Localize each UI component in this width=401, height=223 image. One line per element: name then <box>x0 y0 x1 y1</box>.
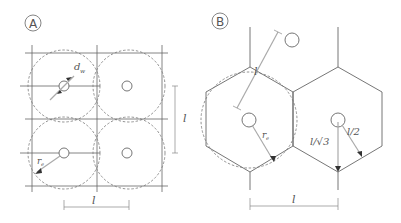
influence-circles <box>28 50 165 189</box>
panel-a-label: A <box>29 17 38 31</box>
panel-b-label: B <box>216 15 224 29</box>
svg-text:e: e <box>266 135 269 141</box>
inradius-dimension: l/2 <box>342 125 362 157</box>
well-pattern-diagram: A d w r e <box>0 0 401 223</box>
well-diameter-dimension: d w <box>50 61 86 100</box>
svg-text:l: l <box>183 112 187 125</box>
svg-text:l/2: l/2 <box>347 126 360 137</box>
hexagonal-grid <box>201 27 382 190</box>
svg-text:e: e <box>41 161 44 167</box>
horizontal-spacing-dimension-a: l <box>64 194 129 210</box>
panel-b-badge: B <box>212 13 228 29</box>
svg-text:w: w <box>80 67 86 74</box>
radius-dimension-b: r e <box>252 125 276 162</box>
square-grid <box>20 45 168 192</box>
wells-hex <box>242 33 345 127</box>
wells-square <box>59 81 132 158</box>
svg-text:l: l <box>292 193 296 206</box>
svg-text:l: l <box>92 194 96 207</box>
radius-dimension-a: r e <box>35 156 60 174</box>
svg-text:l: l <box>254 65 258 78</box>
vertical-spacing-dimension: l <box>172 86 187 153</box>
panel-a-badge: A <box>25 15 41 31</box>
svg-text:l/√3: l/√3 <box>310 136 329 147</box>
horizontal-spacing-dimension-b: l <box>250 193 338 210</box>
diagonal-spacing-dimension: l <box>233 30 282 110</box>
